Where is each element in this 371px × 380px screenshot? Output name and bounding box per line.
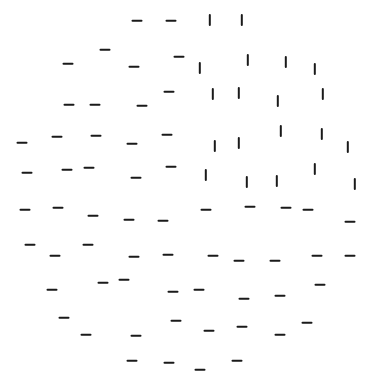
vertical-line-element: [247, 54, 249, 66]
horizontal-line-element: [88, 215, 99, 217]
horizontal-line-element: [59, 317, 70, 319]
vertical-line-element: [238, 87, 240, 99]
horizontal-line-element: [158, 220, 169, 222]
horizontal-line-element: [232, 360, 243, 362]
vertical-line-element: [205, 169, 207, 181]
vertical-line-element: [214, 140, 216, 152]
horizontal-line-element: [100, 49, 111, 51]
vertical-line-element: [241, 14, 243, 26]
horizontal-line-element: [166, 20, 177, 22]
vertical-line-element: [246, 176, 248, 188]
vertical-line-element: [212, 88, 214, 100]
vertical-line-element: [321, 128, 323, 140]
horizontal-line-element: [63, 63, 74, 65]
horizontal-line-element: [270, 260, 281, 262]
vertical-line-element: [276, 175, 278, 187]
horizontal-line-element: [174, 56, 185, 58]
horizontal-line-element: [204, 330, 215, 332]
horizontal-line-element: [137, 105, 148, 107]
vertical-line-element: [354, 178, 356, 190]
horizontal-line-element: [17, 142, 28, 144]
horizontal-line-element: [171, 320, 182, 322]
horizontal-line-element: [53, 207, 64, 209]
horizontal-line-element: [25, 244, 36, 246]
horizontal-line-element: [303, 209, 314, 211]
horizontal-line-element: [127, 143, 138, 145]
horizontal-line-element: [162, 134, 173, 136]
horizontal-line-element: [64, 104, 75, 106]
horizontal-line-element: [131, 177, 142, 179]
horizontal-line-element: [245, 206, 256, 208]
horizontal-line-element: [195, 369, 206, 371]
horizontal-line-element: [52, 136, 63, 138]
horizontal-line-element: [208, 255, 219, 257]
horizontal-line-element: [194, 289, 205, 291]
horizontal-line-element: [129, 256, 140, 258]
horizontal-line-element: [124, 219, 135, 221]
horizontal-line-element: [239, 298, 250, 300]
horizontal-line-element: [81, 334, 92, 336]
horizontal-line-element: [119, 279, 130, 281]
horizontal-line-element: [62, 169, 73, 171]
horizontal-line-element: [47, 289, 58, 291]
horizontal-line-element: [164, 91, 175, 93]
texture-stimulus-canvas: [0, 0, 371, 380]
horizontal-line-element: [20, 209, 31, 211]
horizontal-line-element: [281, 207, 292, 209]
horizontal-line-element: [237, 326, 248, 328]
horizontal-line-element: [163, 254, 174, 256]
horizontal-line-element: [345, 255, 356, 257]
horizontal-line-element: [164, 362, 175, 364]
vertical-line-element: [199, 62, 201, 74]
horizontal-line-element: [98, 282, 109, 284]
horizontal-line-element: [132, 20, 143, 22]
vertical-line-element: [280, 125, 282, 137]
horizontal-line-element: [91, 135, 102, 137]
horizontal-line-element: [168, 291, 179, 293]
vertical-line-element: [285, 56, 287, 68]
horizontal-line-element: [83, 244, 94, 246]
vertical-line-element: [277, 95, 279, 107]
horizontal-line-element: [345, 221, 356, 223]
horizontal-line-element: [129, 66, 140, 68]
vertical-line-element: [322, 88, 324, 100]
horizontal-line-element: [315, 284, 326, 286]
horizontal-line-element: [275, 334, 286, 336]
horizontal-line-element: [312, 255, 323, 257]
vertical-line-element: [314, 63, 316, 75]
horizontal-line-element: [166, 166, 177, 168]
horizontal-line-element: [90, 104, 101, 106]
horizontal-line-element: [22, 172, 33, 174]
horizontal-line-element: [234, 260, 245, 262]
vertical-line-element: [209, 14, 211, 26]
horizontal-line-element: [131, 335, 142, 337]
horizontal-line-element: [84, 167, 95, 169]
vertical-line-element: [238, 137, 240, 149]
vertical-line-element: [347, 141, 349, 153]
horizontal-line-element: [50, 255, 61, 257]
horizontal-line-element: [302, 322, 313, 324]
horizontal-line-element: [127, 360, 138, 362]
horizontal-line-element: [201, 209, 212, 211]
vertical-line-element: [314, 163, 316, 175]
horizontal-line-element: [275, 295, 286, 297]
